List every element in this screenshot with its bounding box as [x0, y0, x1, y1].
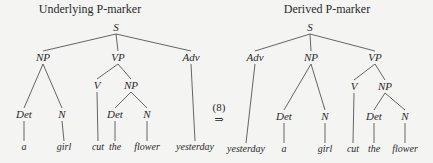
leaf-word-the: the	[109, 141, 122, 152]
tree-edge	[115, 92, 131, 108]
tree-node-n2: N	[400, 110, 409, 122]
derived-p-marker-tree: Derived P-marker SAdvNPVPDetNVNPDetNyest…	[226, 2, 418, 154]
tree-node-det1: Det	[275, 110, 293, 122]
leaf-word-girl: girl	[318, 143, 333, 154]
tree-edge	[375, 64, 385, 80]
tree-node-det1: Det	[15, 108, 33, 120]
tree-edge	[374, 93, 385, 110]
leaf-word-the: the	[368, 143, 381, 154]
tree-node-s: S	[113, 21, 119, 33]
tree-edge	[255, 34, 310, 51]
underlying-p-marker-tree: Underlying P-marker SNPVPAdvDetNVNPDetNa…	[15, 2, 214, 152]
leaf-word-cut: cut	[347, 143, 359, 154]
tree-node-det2: Det	[365, 110, 383, 122]
leaf-word-girl: girl	[57, 141, 72, 152]
derived-tree-title: Derived P-marker	[284, 2, 370, 16]
tree-edge	[310, 34, 311, 51]
tree-edge	[131, 92, 147, 108]
tree-edge	[118, 64, 131, 79]
tree-node-np2: NP	[377, 80, 392, 92]
tree-edge	[43, 64, 62, 108]
tree-node-adv: Adv	[245, 51, 263, 63]
tree-node-v: V	[94, 79, 102, 91]
tree-node-s: S	[307, 21, 313, 33]
p-marker-diagram: Underlying P-marker SNPVPAdvDetNVNPDetNa…	[0, 0, 433, 163]
tree-node-n2: N	[142, 108, 151, 120]
tree-edge	[43, 34, 116, 51]
tree-node-np: NP	[303, 51, 318, 63]
tree-edge	[311, 64, 325, 110]
tree-node-vp: VP	[111, 51, 125, 63]
tree-edge	[116, 34, 118, 51]
tree-edge	[116, 34, 191, 51]
leaf-word-yesterday: yesterday	[226, 143, 266, 154]
derived-tree-nodes: SAdvNPVPDetNVNPDetNyesterdayagirlcutthef…	[226, 21, 418, 154]
tree-diagram-svg: Underlying P-marker SNPVPAdvDetNVNPDetNa…	[0, 0, 433, 163]
tree-node-adv: Adv	[181, 51, 199, 63]
leaf-word-yesterday: yesterday	[175, 141, 215, 152]
leaf-word-a: a	[22, 141, 27, 152]
underlying-tree-title: Underlying P-marker	[39, 2, 141, 16]
tree-edge	[97, 64, 118, 79]
tree-edge	[246, 64, 255, 143]
tree-edge	[97, 92, 98, 141]
leaf-word-cut: cut	[92, 141, 104, 152]
tree-edge	[385, 93, 405, 110]
tree-edge	[62, 121, 64, 141]
tree-node-vp: VP	[368, 51, 382, 63]
tree-edge	[310, 34, 375, 51]
tree-node-v: V	[351, 80, 359, 92]
tree-node-n1: N	[320, 110, 329, 122]
tree-edge	[353, 93, 354, 143]
tree-edge	[284, 64, 311, 110]
tree-edge	[191, 64, 195, 141]
transformation-marker: (8) ⇒	[213, 101, 226, 125]
tree-node-np2: NP	[123, 79, 138, 91]
tree-node-det2: Det	[106, 108, 124, 120]
leaf-word-flower: flower	[134, 141, 160, 152]
tree-node-np: NP	[35, 51, 50, 63]
leaf-word-flower: flower	[392, 143, 418, 154]
leaf-word-a: a	[282, 143, 287, 154]
tree-edge	[354, 64, 375, 80]
tree-node-n1: N	[57, 108, 66, 120]
tree-edge	[24, 64, 43, 108]
double-arrow-icon: ⇒	[214, 113, 223, 125]
